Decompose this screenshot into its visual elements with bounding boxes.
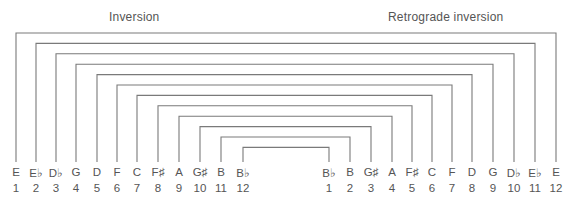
inversion-note-11: B [217,166,225,178]
inversion-note-4: G [72,166,81,178]
retrograde-inversion-note-3: G♯ [364,166,379,178]
retrograde-inversion-note-11: E♭ [528,166,542,180]
inversion-note-2: E♭ [29,166,43,180]
inversion-note-1: E [12,166,20,178]
inversion-note-7: C [133,166,141,178]
retrograde-inversion-note-5: F♯ [406,166,419,178]
retrograde-inversion-note-1: B♭ [322,166,336,180]
bracket-3 [56,54,514,162]
inversion-number-6: 6 [114,182,120,194]
retrograde-inversion-number-6: 6 [429,182,435,194]
retrograde-inversion-note-12: E [552,166,560,178]
inversion-note-8: F♯ [152,166,165,178]
retrograde-inversion-note-10: D♭ [507,166,521,180]
bracket-connectors [0,0,573,206]
retrograde-inversion-note-7: F [448,166,455,178]
inversion-number-5: 5 [94,182,100,194]
bracket-9 [179,116,392,162]
retrograde-inversion-note-6: C [428,166,436,178]
retrograde-inversion-note-9: G [489,166,498,178]
inversion-number-8: 8 [155,182,161,194]
inversion-note-3: D♭ [49,166,63,180]
bracket-11 [221,137,350,162]
retrograde-inversion-number-2: 2 [347,182,353,194]
retrograde-inversion-number-11: 11 [529,182,541,194]
inversion-note-5: D [93,166,101,178]
inversion-number-10: 10 [194,182,207,194]
bracket-6 [117,85,452,162]
inversion-number-1: 1 [13,182,19,194]
bracket-2 [36,43,535,162]
retrograde-inversion-number-10: 10 [508,182,521,194]
inversion-note-9: A [175,166,183,178]
inversion-number-7: 7 [134,182,140,194]
retrograde-inversion-number-3: 3 [368,182,374,194]
inversion-note-6: F [113,166,120,178]
retrograde-inversion-number-9: 9 [490,182,496,194]
retrograde-inversion-number-8: 8 [469,182,475,194]
retrograde-inversion-note-2: B [346,166,354,178]
bracket-12 [243,147,329,162]
inversion-number-2: 2 [33,182,39,194]
retrograde-inversion-note-8: D [468,166,476,178]
inversion-number-4: 4 [73,182,79,194]
bracket-5 [97,75,472,162]
inversion-number-11: 11 [215,182,227,194]
retrograde-inversion-number-12: 12 [550,182,563,194]
retrograde-inversion-number-7: 7 [449,182,455,194]
retrograde-inversion-number-1: 1 [326,182,332,194]
bracket-10 [200,127,371,162]
bracket-8 [158,106,412,162]
inversion-number-12: 12 [237,182,250,194]
retrograde-inversion-note-4: A [388,166,396,178]
retrograde-inversion-number-5: 5 [409,182,415,194]
retrograde-inversion-number-4: 4 [389,182,395,194]
inversion-number-3: 3 [53,182,59,194]
inversion-note-12: B♭ [236,166,250,180]
inversion-number-9: 9 [176,182,182,194]
inversion-note-10: G♯ [193,166,208,178]
